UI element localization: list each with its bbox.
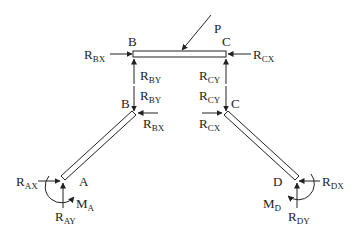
svg-text:MD: MD <box>263 196 282 213</box>
force-rcy-pair: RCY RCY <box>199 59 226 111</box>
label-b-mid: B <box>121 96 130 111</box>
force-rbx-mid: RBX <box>138 113 165 133</box>
member-ab <box>61 111 136 180</box>
svg-text:RBY: RBY <box>140 88 162 105</box>
force-ray: RAY <box>55 183 76 226</box>
svg-text:RBY: RBY <box>140 68 162 85</box>
force-p: P <box>182 15 221 50</box>
label-b-top: B <box>128 34 137 49</box>
force-rbx-top: RBX <box>84 47 132 64</box>
svg-text:RDX: RDX <box>322 174 344 191</box>
svg-text:RBX: RBX <box>84 47 106 64</box>
free-body-diagram: P B C RBX RCX RBY RBY RCY RCY B C RBX <box>0 0 359 234</box>
label-d: D <box>273 174 282 189</box>
force-rcx-top: RCX <box>228 47 275 64</box>
member-dc <box>224 111 299 180</box>
svg-text:RCY: RCY <box>199 68 221 85</box>
svg-text:RAX: RAX <box>16 174 38 191</box>
svg-text:RAY: RAY <box>55 209 76 226</box>
svg-text:RCX: RCX <box>253 47 275 64</box>
beam-bc <box>133 51 226 57</box>
force-rdy: RDY <box>288 183 310 226</box>
force-rdx: RDX <box>299 174 344 191</box>
force-rby-pair: RBY RBY <box>134 59 162 111</box>
svg-text:RDY: RDY <box>288 209 310 226</box>
label-a: A <box>79 174 89 189</box>
label-c-top: C <box>222 34 231 49</box>
force-rax: RAX <box>16 174 60 191</box>
force-rcx-mid: RCX <box>199 113 222 133</box>
svg-text:MA: MA <box>76 196 95 213</box>
svg-text:RBX: RBX <box>143 116 165 133</box>
moment-md: MD <box>263 174 314 213</box>
svg-text:RCY: RCY <box>199 88 221 105</box>
label-c-mid: C <box>231 96 240 111</box>
svg-text:RCX: RCX <box>199 116 221 133</box>
label-p: P <box>214 21 221 36</box>
